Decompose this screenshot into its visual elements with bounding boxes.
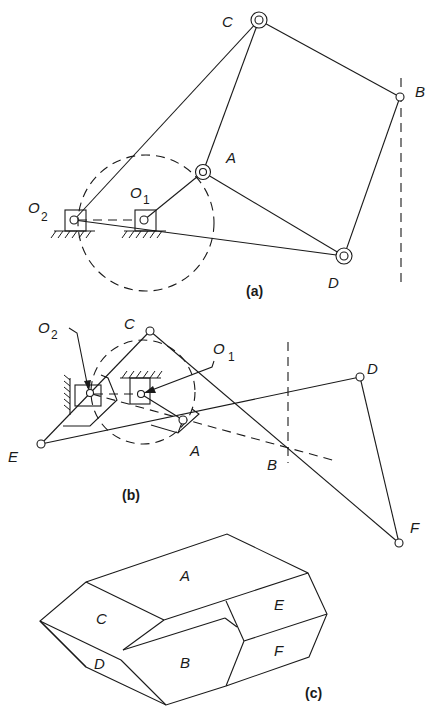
caption-c: (c) [305, 685, 322, 701]
joint-a-a [196, 165, 211, 180]
label-o2-a: O [28, 199, 40, 216]
label-o1-sub-b: 1 [228, 350, 235, 364]
label-o1-b: O [213, 340, 225, 357]
panel-c: A B C D E F (c) [40, 534, 327, 705]
joint-d-b [356, 373, 364, 381]
label-b-b: B [267, 456, 277, 473]
link-o2-c [74, 20, 259, 220]
label-d-a: D [328, 274, 339, 291]
joint-o2-a [70, 216, 78, 224]
link-o2-d [74, 220, 344, 256]
ground-support-o1-b [120, 371, 162, 404]
joint-o1-a [140, 216, 148, 224]
link-o1-a [144, 172, 203, 220]
joint-d-a [336, 248, 352, 264]
label-o2-sub-a: 2 [41, 210, 48, 224]
dash-line-o2-b [92, 394, 336, 461]
link-o1-a-b [141, 394, 183, 420]
label-o1-sub-a: 1 [143, 193, 150, 207]
label-d-b: D [367, 360, 378, 377]
face-label-a: A [179, 567, 190, 584]
joint-b-a [396, 93, 404, 101]
link-d-f [360, 377, 399, 543]
caption-b: (b) [122, 487, 140, 503]
link-a-d [203, 172, 344, 256]
joint-o1-b [138, 391, 145, 398]
label-b-a: B [415, 83, 425, 100]
face-label-c: C [96, 610, 107, 627]
label-c-a: C [222, 13, 233, 30]
panel-a: C B A D O 2 O 1 (a) [28, 12, 425, 299]
joint-f-b [395, 539, 403, 547]
leader-o2-b [69, 328, 88, 388]
joint-e-b [37, 440, 45, 448]
link-e-c [41, 331, 150, 444]
link-c-b [259, 20, 400, 97]
link-b-d [344, 97, 400, 256]
caption-a: (a) [246, 283, 263, 299]
joint-a-b [179, 416, 187, 424]
linkage-figure: C B A D O 2 O 1 (a) [0, 0, 436, 713]
face-label-d: D [94, 655, 105, 672]
label-e-b: E [8, 448, 19, 465]
label-o2-b: O [38, 319, 50, 336]
label-o2-sub-b: 2 [51, 328, 58, 342]
joint-c-a [251, 12, 267, 28]
label-a-a: A [225, 149, 236, 166]
face-label-f: F [274, 642, 284, 659]
joint-o2-b [87, 390, 94, 397]
polyhedron-outline [40, 534, 327, 705]
face-label-e: E [274, 596, 285, 613]
panel-b: O 2 C O 1 D E A B F (b) [8, 315, 420, 547]
label-c-b: C [124, 315, 135, 332]
face-label-b: B [180, 654, 190, 671]
link-c-f [150, 331, 399, 543]
label-f-b: F [410, 519, 420, 536]
label-a-b: A [189, 442, 200, 459]
joint-c-b [146, 327, 154, 335]
label-o1-a: O [130, 184, 142, 201]
